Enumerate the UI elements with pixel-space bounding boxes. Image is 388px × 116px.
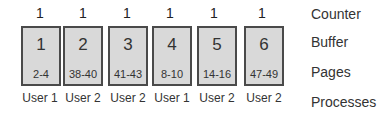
buffer-box: 3 41-43	[108, 26, 148, 86]
row-label-processes: Processes	[311, 94, 376, 110]
buffer-number: 2	[65, 35, 101, 55]
row-label-pages: Pages	[311, 64, 351, 80]
buffer-box: 4 8-10	[152, 26, 192, 86]
buffer-box: 2 38-40	[63, 26, 103, 86]
counter-value: 1	[63, 5, 103, 21]
buffer-box: 6 47-49	[244, 26, 284, 86]
process-label: User 2	[103, 91, 153, 105]
buffer-box: 5 14-16	[197, 26, 237, 86]
page-range: 41-43	[108, 68, 148, 80]
counter-value: 1	[20, 5, 60, 21]
buffer-number: 1	[23, 35, 59, 55]
counter-value: 1	[150, 5, 190, 21]
page-range: 38-40	[63, 68, 103, 80]
row-label-counter: Counter	[311, 6, 361, 22]
buffer-number: 5	[199, 35, 235, 55]
buffer-number: 3	[110, 35, 146, 55]
counter-value: 1	[194, 5, 234, 21]
buffer-box: 1 2-4	[21, 26, 61, 86]
buffer-number: 6	[246, 35, 282, 55]
process-label: User 1	[147, 91, 197, 105]
row-label-buffer: Buffer	[311, 34, 348, 50]
counter-value: 1	[242, 5, 282, 21]
process-label: User 2	[58, 91, 108, 105]
buffer-number: 4	[154, 35, 190, 55]
process-label: User 2	[192, 91, 242, 105]
page-range: 8-10	[152, 68, 192, 80]
page-range: 14-16	[197, 68, 237, 80]
counter-value: 1	[107, 5, 147, 21]
page-range: 47-49	[244, 68, 284, 80]
page-range: 2-4	[21, 68, 61, 80]
process-label: User 2	[239, 91, 289, 105]
